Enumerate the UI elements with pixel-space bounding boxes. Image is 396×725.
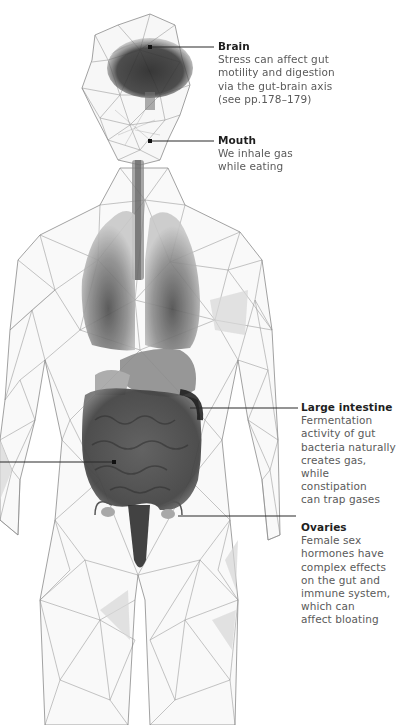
callout-body: We inhale gas while eating (218, 147, 388, 173)
callout-body: Stress can affect gut motility and diges… (218, 53, 388, 106)
callout-body: Fermentation activity of gut bacteria na… (301, 414, 396, 506)
callout-title: Brain (218, 40, 388, 53)
callout-title: Large intestine (301, 401, 396, 414)
callout-large-intestine: Large intestine Fermentation activity of… (301, 401, 396, 507)
callout-title: Ovaries (301, 521, 396, 534)
callout-mouth: Mouth We inhale gas while eating (218, 134, 388, 174)
callout-ovaries: Ovaries Female sex hormones have complex… (301, 521, 396, 627)
callout-body: Female sex hormones have complex effects… (301, 534, 396, 626)
callout-title: Mouth (218, 134, 388, 147)
callout-brain: Brain Stress can affect gut motility and… (218, 40, 388, 106)
